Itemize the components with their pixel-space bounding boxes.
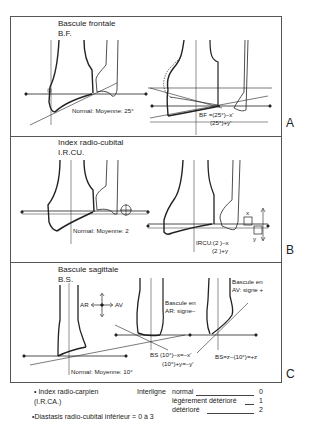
panel-c-formula1-line2: (10°)+y=–y' <box>162 361 194 367</box>
grade-label: normal <box>172 388 193 395</box>
panel-b-abbrev: I.R.CU. <box>58 149 84 157</box>
panel-b-formula-line2: (2 )+y <box>212 248 228 254</box>
panel-a-abbrev: B.F. <box>58 30 72 38</box>
grade-value: 1 <box>259 397 263 404</box>
grade-value: 2 <box>259 406 263 413</box>
panel-b-formula-line1: IRCU:(2 )–x <box>196 240 229 246</box>
panel-c-formula2: BS=z–(10°)=+z <box>215 354 257 360</box>
axis-av-label: AV <box>115 302 123 308</box>
panel-c-normal-label: Normal: Moyenne: 10° <box>71 369 133 375</box>
panel-b-normal-label: Normal: Moyenne: 2 <box>73 228 129 234</box>
panel-b-title: Index radio-cubital <box>58 139 123 147</box>
panel-b-marker-y: y <box>253 236 256 242</box>
panel-a-title: Bascule frontale <box>58 20 115 28</box>
panel-c-letter: C <box>286 367 295 381</box>
panel-c-note-av-line2: AV: signe + <box>232 287 263 293</box>
panel-c-abbrev: B.S. <box>58 276 73 284</box>
footer-index-rc-line1: • Index radio-carpien <box>34 388 98 395</box>
grade-leader-line <box>207 413 254 414</box>
panel-c-title: Bascule sagittale <box>58 266 118 274</box>
panel-c-note-av-line1: Bascule en <box>232 279 263 285</box>
axis-ar-label: AR <box>80 302 89 308</box>
panel-a-formula-line1: BF =(25°)–x' <box>199 112 233 118</box>
footer-diastasis: •Diastasis radio-cubital inférieur = 0 à… <box>32 413 154 420</box>
footer-interligne-label: Interligne <box>137 388 166 395</box>
panel-c-note-ar-line1: Bascule en <box>165 300 196 306</box>
grade-value: 0 <box>259 388 263 395</box>
panel-a-normal-label: Normal: Moyenne: 25° <box>72 108 134 114</box>
panel-b-letter: B <box>286 243 294 257</box>
grade-label: légèrement détérioré <box>172 397 237 404</box>
panel-a-letter: A <box>286 116 294 130</box>
panel-c-formula1-line1: BS (10°)–x=–x' <box>150 352 191 358</box>
panel-c-normal-wrist <box>23 283 185 375</box>
footer-index-rc-line2: (I.R.CA.) <box>34 398 61 405</box>
grade-leader-line <box>245 404 254 405</box>
panel-a-formula-line2: (25°)+y' <box>210 120 231 126</box>
panel-b-marker-x: x <box>246 210 249 216</box>
grade-leader-line <box>196 395 254 396</box>
grade-label: détérioré <box>172 406 200 413</box>
panel-c-note-ar-line2: AR: signe– <box>165 308 195 314</box>
